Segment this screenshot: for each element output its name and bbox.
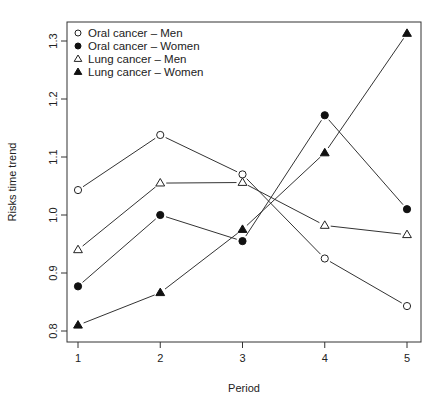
legend-item: Oral cancer – Men: [75, 27, 183, 39]
filled-circle-icon: [74, 283, 81, 290]
open-triangle-icon: [156, 179, 165, 186]
legend-item: Lung cancer – Men: [74, 53, 186, 65]
filled-circle-icon: [75, 43, 81, 49]
series-line-segment: [331, 226, 401, 234]
open-circle-icon: [74, 186, 81, 193]
open-triangle-icon: [320, 221, 329, 228]
legend-label: Lung cancer – Women: [88, 66, 204, 78]
y-tick-label: 1.0: [47, 207, 59, 222]
filled-circle-icon: [239, 238, 246, 245]
series-line-segment: [166, 217, 237, 239]
y-tick-label: 0.9: [47, 265, 59, 280]
filled-triangle-icon: [320, 148, 329, 155]
x-axis-label: Period: [228, 382, 260, 394]
y-tick-label: 0.8: [47, 323, 59, 338]
series-line-segment: [246, 120, 322, 236]
y-axis: 0.80.91.01.11.21.3: [47, 33, 67, 338]
open-triangle-icon: [74, 245, 83, 252]
filled-circle-icon: [321, 112, 328, 119]
legend-item: Lung cancer – Women: [74, 66, 203, 78]
legend-label: Oral cancer – Women: [88, 40, 200, 52]
x-tick-label: 4: [322, 352, 328, 364]
y-tick-label: 1.2: [47, 91, 59, 106]
filled-triangle-icon: [403, 29, 412, 36]
series-0: [74, 131, 410, 309]
series-line-segment: [83, 187, 156, 246]
x-axis: 12345: [75, 342, 410, 364]
filled-circle-icon: [403, 206, 410, 213]
open-triangle-icon: [238, 178, 247, 185]
open-circle-icon: [239, 171, 246, 178]
series-line-segment: [165, 233, 238, 289]
open-triangle-icon: [74, 55, 82, 61]
open-circle-icon: [75, 30, 81, 36]
open-circle-icon: [157, 131, 164, 138]
legend: Oral cancer – MenOral cancer – WomenLung…: [74, 27, 203, 78]
filled-circle-icon: [157, 211, 164, 218]
y-tick-label: 1.3: [47, 33, 59, 48]
series-line-segment: [330, 262, 402, 304]
open-circle-icon: [403, 302, 410, 309]
y-tick-label: 1.1: [47, 149, 59, 164]
legend-label: Oral cancer – Men: [88, 27, 183, 39]
legend-label: Lung cancer – Men: [88, 53, 186, 65]
x-tick-label: 3: [239, 352, 245, 364]
open-circle-icon: [321, 255, 328, 262]
series-line-segment: [84, 295, 155, 323]
open-triangle-icon: [403, 230, 412, 237]
y-axis-label: Risks time trend: [6, 143, 18, 222]
series-1: [74, 112, 410, 290]
filled-triangle-icon: [74, 68, 82, 74]
series-line-segment: [83, 219, 156, 282]
series-line-segment: [83, 138, 155, 186]
series-line-segment: [328, 38, 403, 148]
series-line-segment: [329, 120, 403, 205]
filled-triangle-icon: [238, 225, 247, 232]
series-line-segment: [247, 157, 320, 225]
legend-item: Oral cancer – Women: [75, 40, 200, 52]
x-tick-label: 2: [157, 352, 163, 364]
filled-triangle-icon: [74, 321, 83, 328]
x-tick-label: 1: [75, 352, 81, 364]
x-tick-label: 5: [404, 352, 410, 364]
filled-triangle-icon: [156, 288, 165, 295]
line-chart: 0.80.91.01.11.21.3 12345 Oral cancer – M…: [0, 0, 436, 403]
series-line-segment: [166, 138, 237, 172]
